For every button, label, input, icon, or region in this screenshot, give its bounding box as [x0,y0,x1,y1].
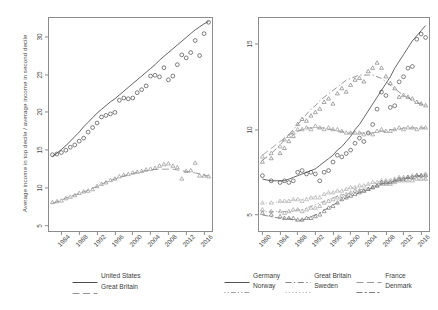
data-point [171,74,175,78]
x-tick: 2012 [179,232,193,245]
x-tick-mark [186,232,187,235]
x-tick: 2000 [126,232,140,245]
data-point [424,126,428,129]
data-point [379,127,383,130]
y-tick-mark [255,214,258,215]
x-tick: 2008 [379,232,393,245]
data-point [397,126,401,129]
data-point [384,74,388,77]
x-tick-label: 2008 [381,233,396,248]
data-point [64,148,68,152]
trend-line [262,26,425,181]
data-point [95,184,99,187]
data-point [207,174,211,177]
data-point [149,167,153,170]
data-point [149,74,153,78]
x-tick-mark [204,232,205,235]
data-point [327,169,331,173]
data-point [362,140,366,144]
data-point [344,131,348,134]
data-point [68,145,72,149]
data-point [189,51,193,55]
data-point [59,151,63,155]
data-point [135,170,139,173]
y-tick-mark [45,188,48,189]
legend-item-great-britain[interactable]: Great Britain [72,283,141,290]
x-tick-label: 1992 [92,233,107,248]
data-point [158,75,162,79]
data-point [340,197,344,200]
data-point [406,126,410,129]
data-point [202,32,206,36]
data-point [384,94,388,98]
data-point [296,208,300,211]
data-point [296,127,300,130]
data-point [366,131,370,134]
data-point [260,201,264,204]
y-tick: 5 [247,213,258,217]
legend-item-great-britain[interactable]: Great Britain [285,272,351,279]
anglo-panel: 5101520253019841988199219962000200420082… [48,17,213,232]
x-tick-mark [150,232,151,235]
x-tick-label: 1984 [275,233,290,248]
data-point [126,97,130,101]
legend-line-swatch [72,283,98,290]
series-united-states [51,20,211,156]
x-tick-mark [168,232,169,235]
y-tick-mark [45,74,48,75]
data-point [313,214,317,217]
legend-item-denmark[interactable]: Denmark [356,282,412,289]
data-point [184,56,188,60]
data-point [117,98,121,102]
data-point [410,97,414,100]
data-point [318,196,322,199]
data-point [340,189,344,192]
x-tick-mark [385,232,386,235]
data-point [278,209,282,212]
data-point [162,66,166,70]
data-point [349,83,353,86]
legend-item-france[interactable]: France [356,272,412,279]
data-point [175,165,179,168]
data-point [296,218,300,221]
data-point [349,131,353,134]
legend-item-sweden[interactable]: Sweden [285,282,351,289]
legend-label: United States [101,272,141,279]
data-point [166,162,170,165]
data-point [100,115,104,119]
y-tick-mark [255,129,258,130]
data-point [300,169,304,173]
data-point [375,129,379,132]
y-tick-label: 10 [247,126,253,133]
legend-label: Great Britain [101,283,138,290]
data-point [318,126,322,129]
legend-item-norway[interactable]: Norway [224,282,280,289]
legend-item-germany[interactable]: Germany [224,272,280,279]
data-point [313,172,317,176]
x-tick: 1996 [108,232,122,245]
x-tick-mark [114,232,115,235]
x-tick-mark [421,232,422,235]
legend-label: Great Britain [314,272,351,279]
data-point [344,187,348,190]
data-point [357,76,361,79]
x-tick-mark [61,232,62,235]
legend-item-united-states[interactable]: United States [72,272,141,279]
data-point [322,170,326,174]
data-point [366,182,370,185]
x-tick-label: 2016 [199,233,214,248]
data-point [305,208,309,211]
data-point [153,73,157,77]
data-point [340,86,344,89]
x-tick-mark [97,232,98,235]
data-point [95,121,99,125]
trend-line [262,128,425,155]
data-point [371,180,375,183]
data-point [198,54,202,58]
x-tick-label: 1988 [293,233,308,248]
x-tick-label: 2008 [163,233,178,248]
data-point [269,213,273,216]
data-point [331,102,335,105]
y-tick: 20 [37,109,48,116]
data-point [309,114,313,117]
